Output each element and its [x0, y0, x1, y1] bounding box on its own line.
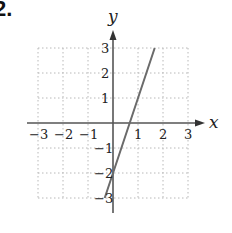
x-axis: [27, 120, 205, 127]
x-tick-label: 2: [159, 127, 167, 142]
y-tick-label: −1: [94, 141, 113, 156]
x-tick-label: 3: [184, 127, 192, 142]
y-tick-label: −3: [94, 191, 113, 206]
y-tick-label: 3: [101, 41, 109, 56]
x-axis-label: x: [209, 112, 219, 132]
x-axis-arrow-icon: [195, 120, 205, 127]
x-tick-label: −3: [29, 127, 48, 142]
y-axis-label: y: [107, 6, 118, 26]
y-tick-label: 2: [101, 66, 109, 81]
x-tick-label: 1: [134, 127, 142, 142]
y-axis-arrow-icon: [110, 30, 117, 40]
y-tick-label: 1: [101, 91, 109, 106]
x-tick-label: −2: [54, 127, 73, 142]
x-tick-label: −1: [79, 127, 98, 142]
y-tick-label: −2: [94, 166, 113, 181]
coordinate-plane: x y −3 −2 −1 1 2 3 3 2 1 −1 −2 −3: [0, 0, 232, 233]
y-axis: [110, 30, 117, 213]
